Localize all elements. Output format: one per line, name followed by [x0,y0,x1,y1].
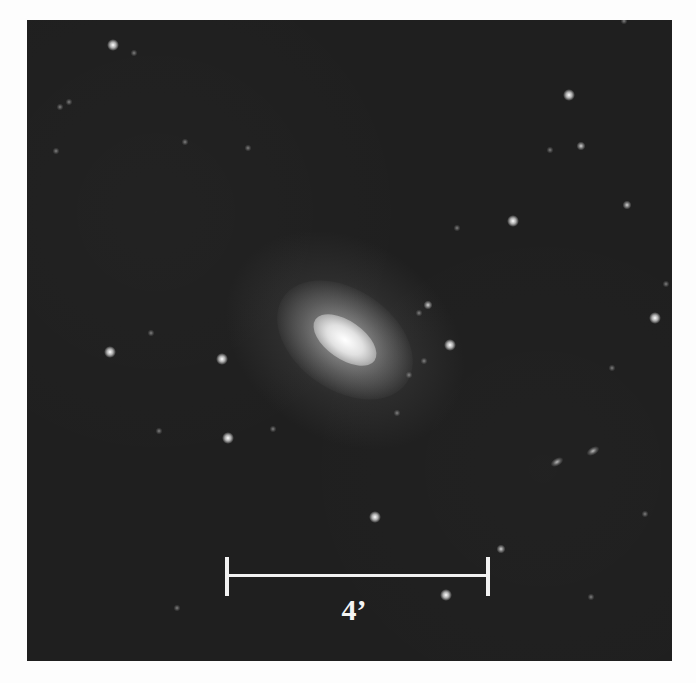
star [394,410,401,417]
star [454,225,461,232]
star [174,605,181,612]
star [270,426,277,433]
star [245,145,252,152]
star [222,432,234,444]
star [609,365,616,372]
star [182,139,189,146]
star [156,428,163,435]
star [53,148,60,155]
star [588,594,595,601]
star [421,358,428,365]
star [369,511,381,523]
star [444,339,456,351]
star [216,353,228,365]
star [104,346,116,358]
star [497,545,506,554]
star [66,99,73,106]
star [577,142,586,151]
star [57,104,64,111]
star [148,330,155,337]
star [406,372,413,379]
star [131,50,138,57]
star [507,215,519,227]
star [440,589,452,601]
star [416,310,423,317]
galaxy-image: 4’ [27,20,672,661]
star [563,89,575,101]
star [642,511,649,518]
star [424,301,433,310]
star [649,312,661,324]
star [107,39,119,51]
star [623,201,632,210]
star [663,281,670,288]
star [547,147,554,154]
